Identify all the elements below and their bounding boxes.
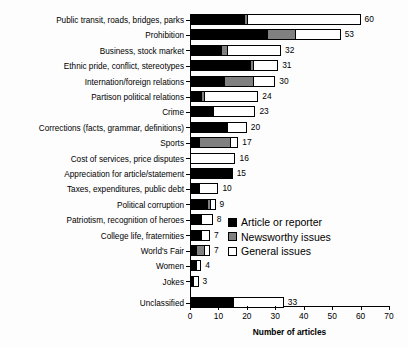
bar-7	[190, 106, 255, 117]
bar-13	[190, 199, 216, 210]
legend-swatch-icon-gray	[228, 232, 237, 241]
bar-segment-black	[190, 297, 233, 308]
bar-segment-gray	[224, 76, 252, 87]
category-label: Appreciation for article/statement	[64, 169, 184, 180]
x-axis-tick-label: 40	[299, 311, 308, 321]
bar-segment-white	[295, 29, 340, 40]
bar-value-label: 17	[242, 137, 251, 148]
bar-value-label: 33	[288, 297, 297, 308]
category-label-column: Public transit, roads, bridges, parksPro…	[0, 14, 187, 306]
category-label: Prohibition	[145, 30, 184, 41]
legend-item-article-or-reporter: Article or reporter	[228, 215, 331, 230]
bar-value-label: 15	[237, 168, 246, 179]
bar-value-label: 20	[251, 122, 260, 133]
category-label: Political corruption	[117, 200, 184, 211]
bar-value-label: 24	[262, 91, 271, 102]
bar-segment-white	[247, 14, 361, 25]
bar-11	[190, 168, 233, 179]
bar-value-label: 31	[282, 60, 291, 71]
legend-label-general-issues: General issues	[241, 244, 311, 259]
plot-area: 60533231302423201716151098774333	[190, 14, 388, 306]
y-axis-tick	[186, 158, 190, 159]
category-label: Jokes	[163, 277, 184, 288]
x-axis-tick-label: 10	[214, 311, 223, 321]
legend-swatch-icon-white	[228, 247, 237, 256]
bar-2	[190, 29, 341, 40]
bar-value-label: 8	[217, 214, 222, 225]
bar-segment-black	[190, 76, 224, 87]
bar-segment-white	[201, 214, 212, 225]
bar-5	[190, 76, 275, 87]
bar-4	[190, 60, 278, 71]
bar-9	[190, 137, 238, 148]
bar-value-label: 7	[214, 245, 219, 256]
y-axis-tick	[186, 35, 190, 36]
bar-value-label: 60	[365, 14, 374, 25]
bar-19	[190, 297, 284, 308]
category-label: Public transit, roads, bridges, parks	[56, 15, 184, 26]
bar-segment-gray	[196, 245, 205, 256]
bar-18	[190, 276, 199, 287]
bar-segment-white	[190, 153, 235, 164]
y-axis-tick	[186, 303, 190, 304]
legend-item-newsworthy-issues: Newsworthy issues	[228, 230, 331, 245]
x-axis-tick	[190, 306, 191, 310]
bar-segment-black	[190, 168, 233, 179]
bar-chart: Public transit, roads, bridges, parksPro…	[0, 0, 408, 348]
bar-segment-black	[190, 230, 201, 241]
bar-segment-white	[227, 122, 247, 133]
x-axis-tick	[332, 306, 333, 310]
category-label: Corrections (facts, grammar, definitions…	[39, 123, 184, 134]
bar-segment-black	[190, 183, 199, 194]
bar-segment-gray	[199, 137, 230, 148]
bar-segment-black	[190, 45, 221, 56]
category-label: Unclassified	[140, 298, 184, 309]
category-label: Taxes, expenditures, public debt	[67, 184, 184, 195]
category-label: Crime	[162, 107, 184, 118]
bar-segment-white	[210, 199, 216, 210]
legend-label-newsworthy-issues: Newsworthy issues	[241, 230, 331, 245]
bar-segment-white	[199, 183, 219, 194]
bar-segment-white	[230, 137, 239, 148]
bar-1	[190, 14, 361, 25]
x-axis-tick	[361, 306, 362, 310]
x-axis-tick-label: 0	[188, 311, 193, 321]
bar-segment-black	[190, 199, 207, 210]
x-axis-tick	[218, 306, 219, 310]
y-axis-tick	[186, 127, 190, 128]
bar-value-label: 7	[214, 230, 219, 241]
category-label: College life, fraternities	[101, 231, 184, 242]
bar-14	[190, 214, 213, 225]
y-axis-tick	[186, 281, 190, 282]
y-axis-tick	[186, 112, 190, 113]
y-axis-tick	[186, 251, 190, 252]
bar-value-label: 9	[220, 199, 225, 210]
y-axis-tick	[186, 220, 190, 221]
legend-item-general-issues: General issues	[228, 244, 331, 259]
bar-value-label: 10	[222, 183, 231, 194]
bar-segment-white	[227, 45, 281, 56]
y-axis-tick	[186, 204, 190, 205]
bar-segment-white	[201, 230, 210, 241]
bar-value-label: 32	[285, 45, 294, 56]
bar-segment-white	[193, 276, 199, 287]
y-axis-tick	[186, 266, 190, 267]
bar-segment-black	[190, 14, 244, 25]
category-label: Cost of services, price disputes	[71, 154, 184, 165]
x-axis-tick-label: 50	[327, 311, 336, 321]
category-label: Women	[156, 261, 184, 272]
bar-segment-black	[190, 137, 199, 148]
y-axis-tick	[186, 81, 190, 82]
category-label: Partison political relations	[91, 92, 184, 103]
y-axis-tick	[186, 50, 190, 51]
bar-17	[190, 260, 201, 271]
x-axis-tick	[275, 306, 276, 310]
x-axis-tick	[247, 306, 248, 310]
category-label: Patriotism, recognition of heroes	[67, 215, 184, 226]
bar-segment-black	[190, 60, 250, 71]
legend-swatch-icon-black	[228, 218, 237, 227]
category-label: Business, stock market	[100, 46, 184, 57]
y-axis-tick	[186, 143, 190, 144]
bar-15	[190, 230, 210, 241]
bar-segment-gray	[267, 29, 295, 40]
